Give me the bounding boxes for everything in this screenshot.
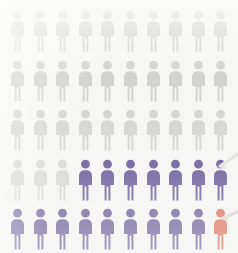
person-pictogram-icon bbox=[190, 10, 207, 52]
person-pictogram-icon bbox=[212, 10, 229, 52]
person-pictogram-icon bbox=[9, 10, 26, 52]
person-pictogram-icon bbox=[122, 60, 139, 102]
person-pictogram-icon bbox=[167, 109, 184, 151]
pictogram-row bbox=[0, 10, 238, 56]
person-pictogram-icon bbox=[167, 10, 184, 52]
person-pictogram-icon bbox=[77, 159, 94, 201]
person-pictogram-icon bbox=[145, 10, 162, 52]
person-pictogram-icon bbox=[32, 10, 49, 52]
person-pictogram-icon bbox=[99, 10, 116, 52]
person-pictogram-icon bbox=[167, 208, 184, 250]
person-pictogram-icon bbox=[99, 60, 116, 102]
person-pictogram-icon bbox=[122, 159, 139, 201]
pictogram-row bbox=[0, 60, 238, 106]
person-pictogram-icon bbox=[99, 208, 116, 250]
person-pictogram-icon bbox=[77, 10, 94, 52]
person-pictogram-icon bbox=[77, 109, 94, 151]
person-pictogram-icon bbox=[212, 109, 229, 151]
person-pictogram-icon bbox=[32, 109, 49, 151]
person-pictogram-icon bbox=[212, 60, 229, 102]
pictogram-row bbox=[0, 208, 238, 253]
person-pictogram-icon bbox=[145, 109, 162, 151]
person-pictogram-icon bbox=[122, 10, 139, 52]
person-pictogram-icon bbox=[99, 159, 116, 201]
pictogram-row bbox=[0, 109, 238, 155]
person-pictogram-icon bbox=[54, 208, 71, 250]
person-pictogram-icon bbox=[9, 208, 26, 250]
person-pictogram-icon bbox=[167, 159, 184, 201]
person-pictogram-icon bbox=[32, 159, 49, 201]
person-pictogram-icon bbox=[54, 159, 71, 201]
person-pictogram-icon bbox=[145, 159, 162, 201]
person-pictogram-icon bbox=[122, 208, 139, 250]
person-pictogram-icon bbox=[190, 109, 207, 151]
person-pictogram-icon bbox=[9, 60, 26, 102]
person-pictogram-icon bbox=[9, 109, 26, 151]
person-pictogram-icon bbox=[32, 208, 49, 250]
person-pictogram-icon bbox=[32, 60, 49, 102]
person-pictogram-icon bbox=[54, 109, 71, 151]
person-pictogram-icon bbox=[9, 159, 26, 201]
person-pictogram-icon bbox=[190, 60, 207, 102]
person-pictogram-icon bbox=[122, 109, 139, 151]
person-pictogram-icon bbox=[190, 159, 207, 201]
person-pictogram-icon bbox=[212, 208, 229, 250]
person-pictogram-icon bbox=[54, 60, 71, 102]
person-pictogram-icon bbox=[212, 159, 229, 201]
person-pictogram-icon bbox=[190, 208, 207, 250]
pictogram-chart bbox=[0, 0, 238, 253]
person-pictogram-icon bbox=[77, 208, 94, 250]
person-pictogram-icon bbox=[54, 10, 71, 52]
person-pictogram-icon bbox=[167, 60, 184, 102]
person-pictogram-icon bbox=[99, 109, 116, 151]
person-pictogram-icon bbox=[145, 60, 162, 102]
pictogram-row bbox=[0, 159, 238, 205]
person-pictogram-icon bbox=[145, 208, 162, 250]
person-pictogram-icon bbox=[77, 60, 94, 102]
